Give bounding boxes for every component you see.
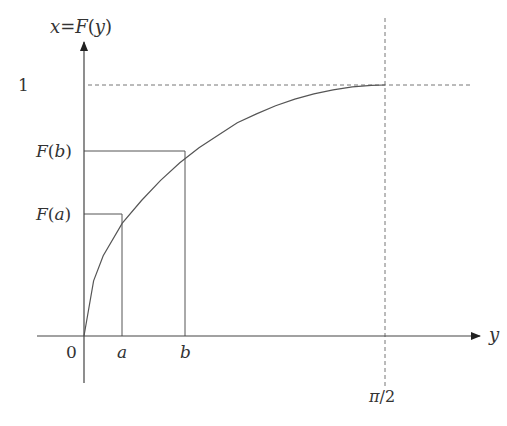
tick-label-pi-over-2: π/2 [368, 387, 395, 406]
vertical-axis-label: x=F(y) [50, 16, 112, 37]
horizontal-axis-label: y [488, 324, 500, 345]
tick-label-one: 1 [18, 75, 29, 95]
origin-label: 0 [66, 342, 77, 362]
diagram-canvas: x=F(y) y 0 1 F(b) F(a) a b π/2 [0, 0, 507, 426]
curve-x-equals-F-of-y [84, 85, 385, 336]
tick-label-F-b: F(b) [35, 141, 72, 161]
tick-label-b: b [180, 342, 191, 362]
tick-label-a: a [117, 342, 127, 362]
projection-b [84, 151, 185, 336]
tick-label-F-a: F(a) [35, 204, 71, 224]
